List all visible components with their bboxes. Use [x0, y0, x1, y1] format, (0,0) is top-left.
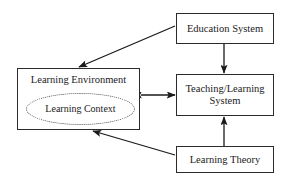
- node-education-system-label: Education System: [187, 23, 263, 35]
- node-learning-theory-label: Learning Theory: [190, 154, 261, 166]
- node-learning-environment-label: Learning Environment: [18, 74, 139, 86]
- node-learning-theory: Learning Theory: [176, 146, 274, 173]
- node-learning-environment: Learning Environment Learning Context: [17, 68, 140, 130]
- diagram-canvas: Education System Learning Environment Le…: [0, 0, 288, 181]
- node-education-system: Education System: [176, 13, 274, 44]
- edge-education-to-learning-environment: [79, 26, 175, 67]
- node-learning-context-label: Learning Context: [45, 103, 115, 114]
- edge-learning-theory-to-learning-environment: [93, 131, 175, 155]
- node-teaching-learning-system: Teaching/Learning System: [176, 74, 274, 116]
- node-learning-context: Learning Context: [26, 93, 135, 125]
- node-teaching-learning-system-label: Teaching/Learning System: [185, 83, 264, 107]
